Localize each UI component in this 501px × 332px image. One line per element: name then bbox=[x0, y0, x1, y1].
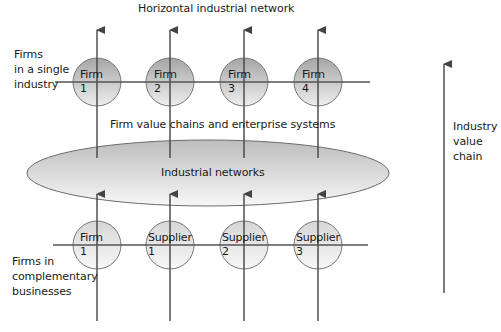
label-firms-single-industry: Firms in a single industry bbox=[14, 47, 69, 92]
node-top-1: Firm 1 bbox=[80, 68, 103, 96]
label-industry-value-chain: Industry value chain bbox=[453, 119, 497, 164]
node-bottom-1: Firm 1 bbox=[80, 231, 103, 259]
node-bottom-2: Supplier 1 bbox=[148, 231, 192, 259]
node-top-4: Firm 4 bbox=[302, 68, 325, 96]
label-firms-complementary-businesses: Firms in complementary businesses bbox=[12, 254, 98, 299]
diagram-canvas: Horizontal industrial network Firms in a… bbox=[0, 0, 501, 332]
top-vertical-arrows bbox=[97, 30, 318, 158]
bottom-vertical-arrows bbox=[97, 194, 318, 321]
label-industrial-networks: Industrial networks bbox=[161, 166, 265, 179]
node-bottom-3: Supplier 2 bbox=[222, 231, 266, 259]
node-bottom-4: Supplier 3 bbox=[296, 231, 340, 259]
label-firm-value-chains: Firm value chains and enterprise systems bbox=[110, 118, 335, 131]
node-top-2: Firm 2 bbox=[154, 68, 177, 96]
node-top-3: Firm 3 bbox=[228, 68, 251, 96]
diagram-title: Horizontal industrial network bbox=[138, 2, 294, 15]
